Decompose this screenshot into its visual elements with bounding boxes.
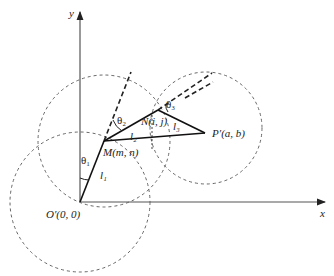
l3-label: l₃ <box>173 120 180 132</box>
circle-p <box>150 72 262 184</box>
y-axis-label: y <box>68 7 74 19</box>
kinematics-diagram: y x θ₁ θ₂ θ₃ l₁ l₂ l₃ M(m, n) N(i, j) P′… <box>0 0 334 276</box>
theta1-arc <box>80 178 89 180</box>
l1-label: l₁ <box>100 169 107 181</box>
theta1-label: θ₁ <box>81 154 90 166</box>
point-n-label: N(i, j) <box>140 115 168 128</box>
axes: y x <box>68 7 325 219</box>
point-p-label: P′(a, b) <box>211 127 245 140</box>
point-m-label: M(m, n) <box>102 146 139 159</box>
l2-label: l₂ <box>130 130 137 142</box>
link1-extension <box>104 72 131 141</box>
theta3-label: θ₃ <box>166 98 175 110</box>
theta2-label: θ₂ <box>117 114 126 126</box>
link-mp <box>104 133 205 141</box>
workspace-circles <box>10 72 262 272</box>
origin-label: O′(0, 0) <box>46 208 81 221</box>
x-axis-label: x <box>319 207 325 219</box>
link2-extension-outer <box>185 82 213 98</box>
